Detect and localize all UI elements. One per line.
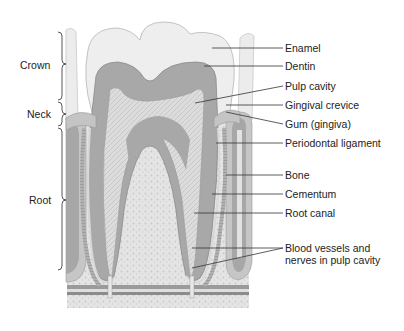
label-neck: Neck [27,108,51,120]
label-crown: Crown [20,59,50,71]
region-braces [58,32,66,270]
label-root: Root [29,194,51,206]
root-brace [58,128,66,270]
label-gum: Gum (gingiva) [285,118,351,130]
tooth-diagram [0,0,404,331]
label-cementum: Cementum [285,188,336,200]
neck-brace [58,102,66,126]
label-dentin: Dentin [285,60,315,72]
label-pulp-cavity: Pulp cavity [285,80,336,92]
label-blood-vessels-nerves: Blood vessels and nerves in pulp cavity [285,242,395,266]
label-root-canal: Root canal [285,207,335,219]
label-periodontal-ligament: Periodontal ligament [285,137,381,149]
label-bone: Bone [285,169,310,181]
crown-brace [58,32,66,100]
label-enamel: Enamel [285,42,321,54]
label-gingival-crevice: Gingival crevice [285,99,359,111]
